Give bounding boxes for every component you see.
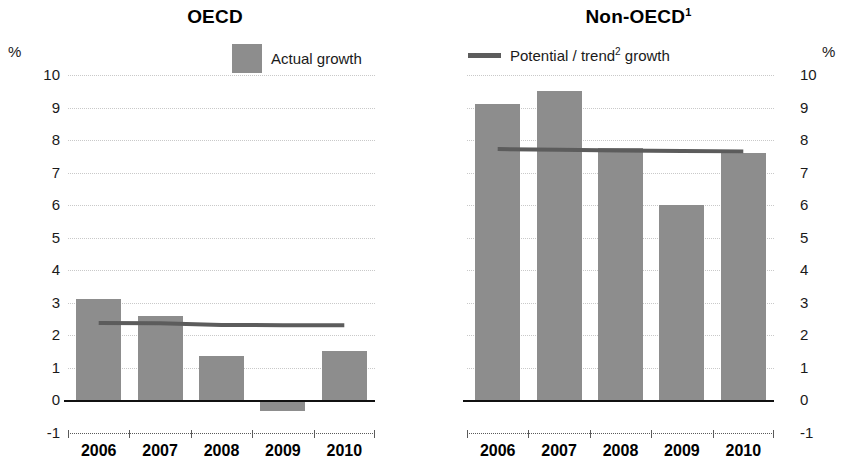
x-axis-tick [713,430,714,438]
x-axis-tick [374,430,375,438]
bar [537,91,582,400]
plot-area-oecd [68,75,375,433]
x-axis-tick [252,430,253,438]
x-axis-tick [528,430,529,438]
x-axis-label: 2010 [327,442,363,460]
panel-non-oecd: 20062007200820092010 [430,0,847,453]
x-axis-non-oecd [467,433,774,441]
x-axis-oecd [68,433,375,441]
gridline [68,238,375,239]
x-axis-labels-oecd: 20062007200820092010 [68,442,375,460]
bar [199,356,244,400]
x-axis-rule [467,433,774,434]
x-axis-tick [191,430,192,438]
x-axis-label: 2007 [541,442,577,460]
bar [76,299,121,400]
panel-oecd: 20062007200820092010 [0,0,430,453]
gridline [68,270,375,271]
bar [475,104,520,400]
x-axis-label: 2009 [265,442,301,460]
x-axis-tick [467,430,468,438]
x-axis-tick [129,430,130,438]
gridline [68,205,375,206]
x-axis-tick [68,430,69,438]
bar [138,316,183,401]
zero-line [463,400,774,402]
x-axis-labels-non-oecd: 20062007200820092010 [467,442,774,460]
x-axis-label: 2008 [603,442,639,460]
gridline [68,173,375,174]
x-axis-label: 2008 [204,442,240,460]
gridline [68,75,375,76]
gridline [467,75,774,76]
zero-line [64,400,375,402]
gridline [68,140,375,141]
x-axis-label: 2009 [664,442,700,460]
bar [721,153,766,400]
bar [598,148,643,400]
gridline [68,108,375,109]
bar [322,351,367,400]
x-axis-tick [773,430,774,438]
plot-area-non-oecd [467,75,774,433]
x-axis-label: 2006 [81,442,117,460]
x-axis-label: 2010 [726,442,762,460]
x-axis-label: 2006 [480,442,516,460]
x-axis-tick [590,430,591,438]
x-axis-label: 2007 [142,442,178,460]
x-axis-tick [314,430,315,438]
x-axis-tick [651,430,652,438]
x-axis-rule [68,433,375,434]
bar [659,205,704,400]
